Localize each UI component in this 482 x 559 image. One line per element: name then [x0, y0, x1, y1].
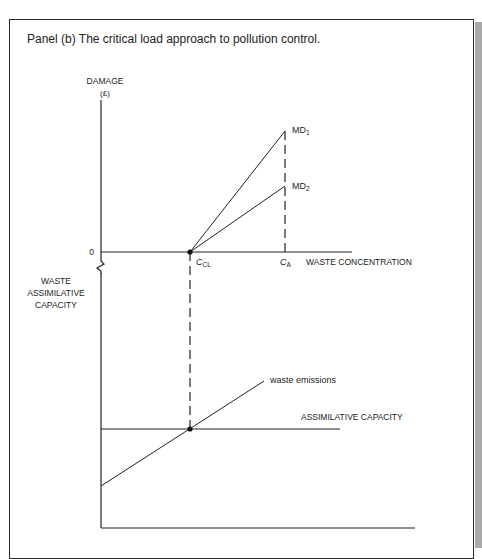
damage-axis-unit: (£)	[100, 89, 110, 98]
waste-assimilative-capacity-label-1: WASTE	[41, 276, 71, 286]
waste-assimilative-capacity-label-2: ASSIMILATIVE	[27, 288, 85, 298]
assimilative-capacity-label: ASSIMILATIVE CAPACITY	[301, 412, 403, 422]
md1-curve	[190, 131, 285, 252]
ccl-point	[187, 249, 192, 254]
damage-axis-label: DAMAGE	[87, 76, 124, 86]
md1-label: MD1	[292, 125, 310, 136]
intersection-point	[187, 426, 192, 431]
md2-curve	[190, 186, 285, 252]
origin-zero-label: 0	[89, 247, 94, 257]
waste-emissions-line	[101, 381, 264, 486]
waste-assimilative-capacity-label-3: CAPACITY	[35, 300, 77, 310]
waste-concentration-label: WASTE CONCENTRATION	[306, 257, 412, 267]
waste-emissions-label: waste emissions	[269, 375, 337, 385]
ca-label: CA	[280, 257, 292, 268]
axis-break-zigzag	[97, 253, 104, 274]
ccl-label: CCL	[196, 257, 211, 268]
md2-label: MD2	[292, 181, 310, 192]
